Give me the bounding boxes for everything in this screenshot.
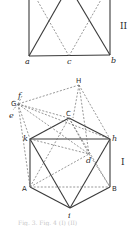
roman-label-i: I (121, 157, 125, 167)
label-f: f (17, 91, 23, 100)
dash-G-h (18, 104, 110, 139)
label-k: k (23, 134, 28, 143)
dash-c-left (36, 0, 69, 56)
dash-G-A (18, 104, 30, 187)
label-e: e (9, 111, 14, 120)
dash-G-C (18, 104, 69, 118)
figure-ii: a c b II (25, 0, 128, 66)
dash-H-G (18, 85, 79, 104)
line-a-apex (29, 0, 62, 56)
dash-H-C (73, 85, 79, 118)
label-B: B (112, 185, 117, 193)
label-d: d (86, 156, 91, 165)
label-a: a (25, 57, 30, 66)
label-G: G (11, 100, 16, 108)
label-H: H (76, 77, 81, 85)
dash-k-d (30, 139, 89, 154)
label-b: b (111, 56, 116, 65)
label-C: C (66, 110, 71, 118)
dash-c-right (69, 0, 102, 56)
figure-i: H C G f e k h d A B i I (9, 77, 125, 220)
label-h: h (112, 134, 117, 143)
label-c: c (67, 57, 72, 66)
geometry-diagram: a c b II H C G (0, 0, 133, 226)
roman-label-ii: II (120, 21, 128, 31)
figure-caption: Fig. 3. Fig. 4 (I) (II) (18, 219, 77, 226)
dash-A-d (30, 154, 89, 187)
line-b-apex (76, 0, 110, 55)
label-A: A (22, 185, 27, 193)
dash-G-d (18, 104, 89, 154)
